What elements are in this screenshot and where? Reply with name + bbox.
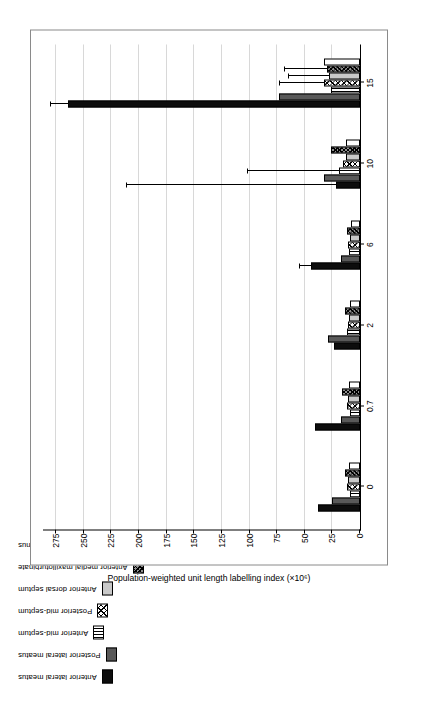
x-axis-tick-mark <box>360 82 364 83</box>
bar <box>347 328 360 335</box>
legend-anterior-lateral-meatus[interactable]: Anterior lateral meatus <box>18 665 113 687</box>
bar <box>349 462 360 469</box>
x-axis-tick-mark <box>360 486 364 487</box>
y-axis-tick-mark <box>55 529 56 533</box>
y-axis-tick-mark <box>304 529 305 533</box>
y-axis-title: Population-weighted unit length labellin… <box>30 569 388 585</box>
bar-group <box>68 58 360 107</box>
bar <box>324 174 360 181</box>
bar <box>332 497 360 504</box>
error-bar <box>279 82 324 83</box>
bar <box>318 504 360 511</box>
error-bar <box>284 68 328 69</box>
error-bar <box>50 103 70 104</box>
x-axis-tick-mark <box>360 405 364 406</box>
gridline <box>83 44 84 529</box>
y-axis-tick-label: 150 <box>189 533 199 547</box>
bar <box>343 160 360 167</box>
x-axis-tick-label: 15 <box>365 78 375 87</box>
bar <box>315 423 360 430</box>
bar <box>68 100 360 107</box>
bar <box>334 342 361 349</box>
bar <box>347 402 360 409</box>
bar <box>324 58 360 65</box>
bar <box>345 307 360 314</box>
legend-label: Posterior lateral meatus <box>18 650 101 658</box>
bar <box>349 381 360 388</box>
y-axis-tick-mark <box>83 529 84 533</box>
bar <box>351 220 360 227</box>
bar <box>341 255 360 262</box>
figure-container: Anterior lateral meatusPosterior lateral… <box>0 0 422 715</box>
bar <box>345 469 360 476</box>
y-axis-tick-label: 275 <box>51 533 61 547</box>
y-axis-tick-mark <box>276 529 277 533</box>
y-axis-tick-label: 200 <box>134 533 144 547</box>
gridline <box>276 44 277 529</box>
error-bar <box>247 170 340 171</box>
bar <box>348 395 360 402</box>
bar <box>349 314 360 321</box>
gridline <box>221 44 222 529</box>
legend-label: Anterior lateral meatus <box>18 672 97 680</box>
y-axis-tick-mark <box>110 529 111 533</box>
x-axis-tick-mark <box>360 162 364 163</box>
bar <box>349 248 360 255</box>
x-axis-tick-label: 0.7 <box>365 400 375 412</box>
gridline <box>166 44 167 529</box>
x-axis-tick-mark <box>360 243 364 244</box>
bar <box>346 153 360 160</box>
gridline <box>55 44 56 529</box>
bar-group <box>324 139 360 188</box>
y-axis-tick-mark <box>331 529 332 533</box>
error-bar-cap <box>279 80 280 85</box>
bar <box>348 321 360 328</box>
bar <box>329 72 360 79</box>
legend-swatch-icon <box>102 669 113 683</box>
bar <box>328 335 360 342</box>
x-axis-tick-label: 0 <box>365 484 375 489</box>
error-bar-cap <box>50 101 51 106</box>
error-bar-cap <box>284 66 285 71</box>
legend-posterior-lateral-meatus[interactable]: Posterior lateral meatus <box>18 643 117 665</box>
bar <box>331 146 360 153</box>
y-axis-tick-mark <box>221 529 222 533</box>
y-axis-tick-mark <box>193 529 194 533</box>
y-axis-tick-mark <box>166 529 167 533</box>
error-bar <box>288 75 330 76</box>
error-bar-cap <box>299 263 300 268</box>
legend-anterior-mid-septum[interactable]: Anterior mid-septum <box>18 621 104 643</box>
legend-posterior-mid-septum[interactable]: Posterior mid-septum <box>18 599 108 621</box>
bar <box>324 79 360 86</box>
plot-frame: 025507510012515017520022525027500.726101… <box>30 29 388 565</box>
y-axis-tick-label: 175 <box>162 533 172 547</box>
y-axis-tick-label: 250 <box>79 533 89 547</box>
bar <box>350 409 360 416</box>
error-bar-cap <box>126 182 127 187</box>
bar <box>331 86 360 93</box>
bar <box>339 167 360 174</box>
y-axis-tick-mark <box>249 529 250 533</box>
bar <box>348 241 360 248</box>
gridline <box>331 44 332 529</box>
bar <box>346 139 360 146</box>
bar <box>350 300 360 307</box>
legend-label: Anterior mid-septum <box>18 628 88 636</box>
bar-group <box>318 462 360 511</box>
y-axis-tick-label: 50 <box>300 533 310 542</box>
x-axis-tick-label: 2 <box>365 323 375 328</box>
gridline <box>304 44 305 529</box>
y-axis-tick-label: 125 <box>217 533 227 547</box>
legend-swatch-icon <box>93 625 104 639</box>
bar <box>347 227 360 234</box>
y-axis-tick-mark <box>359 529 360 533</box>
plot-axes: 025507510012515017520022525027500.726101… <box>43 44 361 530</box>
bar-group <box>328 300 360 349</box>
bar <box>336 181 360 188</box>
y-axis-tick-label: 100 <box>245 533 255 547</box>
bar <box>350 490 360 497</box>
x-axis-tick-mark <box>360 324 364 325</box>
bar <box>342 388 360 395</box>
x-axis-tick-label: 10 <box>365 159 375 168</box>
bar <box>350 234 360 241</box>
